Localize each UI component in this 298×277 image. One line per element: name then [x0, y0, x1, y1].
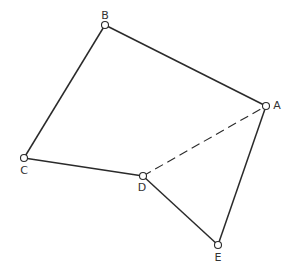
- edge-d-a: [143, 106, 266, 176]
- edges: [24, 25, 266, 245]
- node-label-b: B: [101, 9, 109, 22]
- edge-d-e: [143, 176, 218, 245]
- edge-a-e: [218, 106, 266, 245]
- nodes: [21, 22, 270, 249]
- pentagon-graph: ABCDE: [0, 0, 298, 277]
- edge-c-d: [24, 158, 143, 176]
- node-c: [21, 155, 28, 162]
- node-label-d: D: [138, 181, 146, 194]
- node-e: [215, 242, 222, 249]
- edge-b-c: [24, 25, 105, 158]
- node-label-c: C: [20, 164, 28, 177]
- edge-b-a: [105, 25, 266, 106]
- node-a: [263, 103, 270, 110]
- node-label-a: A: [273, 99, 281, 112]
- node-b: [102, 22, 109, 29]
- diagram-canvas: ABCDE: [0, 0, 298, 277]
- node-label-e: E: [215, 251, 222, 264]
- node-d: [140, 173, 147, 180]
